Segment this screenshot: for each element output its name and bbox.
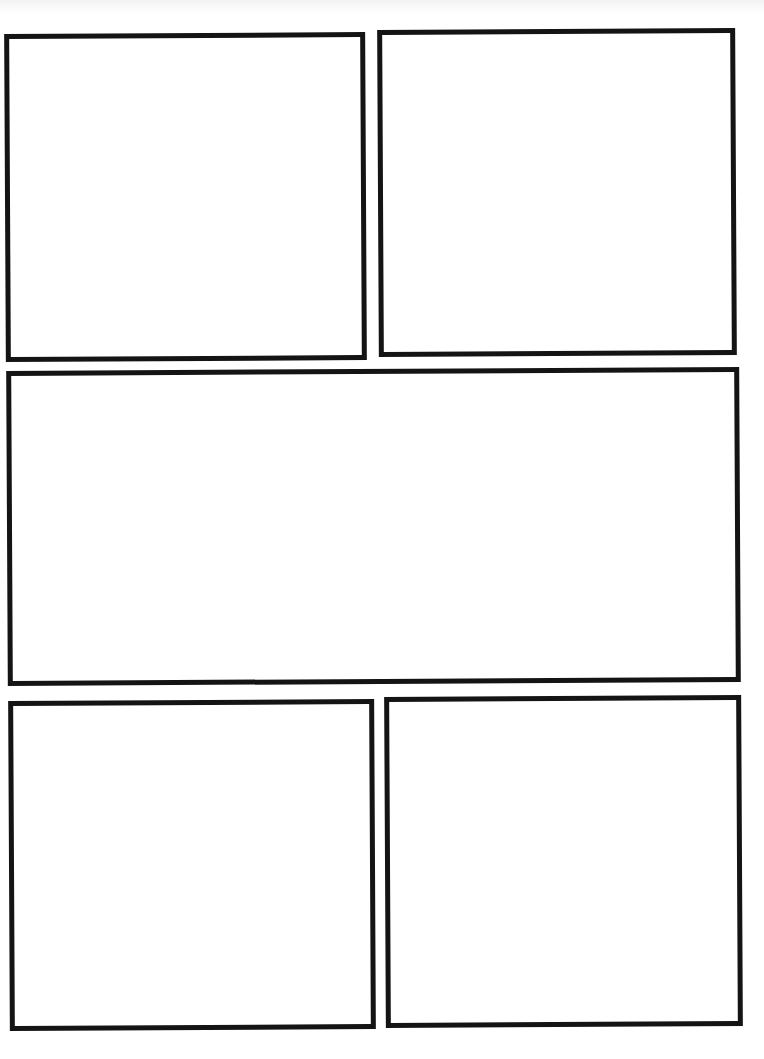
comic-panel-2 <box>377 28 737 357</box>
comic-panel-3 <box>6 367 741 686</box>
comic-panel-4 <box>8 699 376 1031</box>
comic-panel-5 <box>384 695 743 1028</box>
page-edge-shadow <box>0 0 764 14</box>
comic-panel-1 <box>4 32 367 362</box>
